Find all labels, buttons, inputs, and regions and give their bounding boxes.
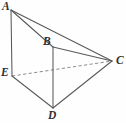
edge-A-C — [11, 10, 112, 61]
edge-B-C — [53, 47, 112, 61]
vertex-label-e: E — [1, 67, 9, 79]
geometry-diagram: A B C D E — [0, 0, 126, 123]
vertex-label-b: B — [43, 36, 51, 48]
geometry-svg — [0, 0, 126, 123]
vertex-label-a: A — [2, 1, 10, 13]
edge-E-D — [12, 76, 53, 108]
edge-E-C-hidden — [12, 61, 112, 76]
vertex-label-d: D — [48, 110, 56, 122]
edge-A-E — [11, 10, 12, 76]
vertex-label-c: C — [116, 55, 124, 67]
